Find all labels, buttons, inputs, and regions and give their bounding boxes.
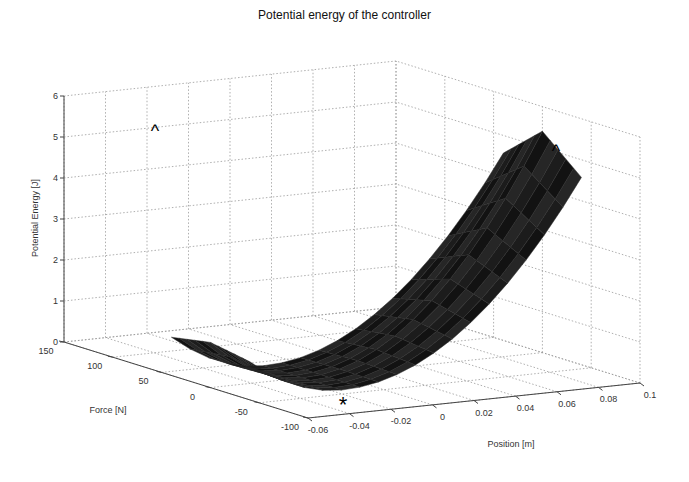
y-axis-label: Force [N] xyxy=(89,405,126,415)
svg-text:4: 4 xyxy=(53,173,58,183)
svg-text:50: 50 xyxy=(139,376,149,386)
peak-marker-left: ^ xyxy=(151,121,160,141)
svg-text:-100: -100 xyxy=(281,422,299,432)
svg-text:0.08: 0.08 xyxy=(600,394,618,404)
svg-text:100: 100 xyxy=(87,361,102,371)
svg-text:3: 3 xyxy=(53,214,58,224)
z-axis-label: Potential Energy [J] xyxy=(30,179,40,257)
svg-text:-0.06: -0.06 xyxy=(308,425,329,435)
figure: Potential energy of the controller 01234… xyxy=(0,0,689,482)
surface xyxy=(171,131,581,390)
x-axis-label: Position [m] xyxy=(487,439,534,449)
svg-text:0.02: 0.02 xyxy=(475,408,493,418)
svg-text:0: 0 xyxy=(190,392,195,402)
svg-text:0: 0 xyxy=(440,412,445,422)
svg-text:1: 1 xyxy=(53,296,58,306)
svg-text:0: 0 xyxy=(53,337,58,347)
svg-text:150: 150 xyxy=(38,346,53,356)
svg-text:-0.02: -0.02 xyxy=(391,416,412,426)
min-marker: * xyxy=(339,392,348,417)
svg-text:2: 2 xyxy=(53,255,58,265)
peak-marker-right: ^ xyxy=(552,141,561,161)
svg-text:-50: -50 xyxy=(235,407,248,417)
svg-text:0.04: 0.04 xyxy=(517,403,535,413)
svg-text:0.1: 0.1 xyxy=(644,390,657,400)
plot-area: 0123456150100500-50-100-0.06-0.04-0.0200… xyxy=(0,0,689,482)
svg-text:-0.04: -0.04 xyxy=(349,421,370,431)
svg-text:0.06: 0.06 xyxy=(558,399,576,409)
svg-text:6: 6 xyxy=(53,91,58,101)
svg-text:5: 5 xyxy=(53,132,58,142)
